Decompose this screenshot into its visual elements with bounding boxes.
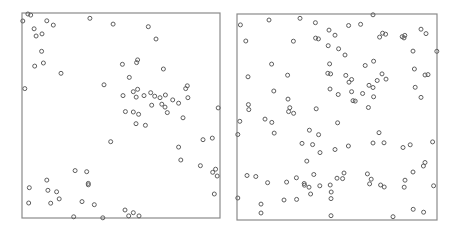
data-point (45, 19, 49, 23)
data-point (421, 164, 425, 168)
data-point (288, 106, 292, 110)
data-point (212, 192, 216, 196)
data-point (329, 190, 333, 194)
data-point (363, 64, 367, 68)
data-point (328, 62, 332, 66)
data-point (307, 128, 311, 132)
data-point (270, 62, 274, 66)
data-point (244, 39, 248, 43)
data-point (372, 95, 376, 99)
data-point (179, 158, 183, 162)
data-point (287, 110, 291, 114)
data-point (266, 181, 270, 185)
data-point (32, 27, 36, 31)
data-point (177, 145, 181, 149)
data-point (341, 177, 345, 181)
data-point (369, 177, 373, 181)
data-point (333, 33, 337, 37)
data-point (158, 96, 162, 100)
data-point (45, 178, 49, 182)
data-point (350, 78, 354, 82)
data-point (402, 185, 406, 189)
data-point (59, 71, 63, 75)
data-point (382, 141, 386, 145)
data-point (365, 172, 369, 176)
data-point (419, 27, 423, 31)
data-point (326, 44, 330, 48)
data-point (336, 121, 340, 125)
data-point (247, 108, 251, 112)
data-point (49, 201, 53, 205)
data-point (312, 173, 316, 177)
data-point (295, 197, 299, 201)
data-point (366, 106, 370, 110)
data-point (136, 87, 140, 91)
data-point (329, 197, 333, 201)
data-point (292, 111, 296, 115)
data-point (121, 94, 125, 98)
data-point (432, 184, 436, 188)
data-point (131, 110, 135, 114)
data-point (246, 75, 250, 79)
data-point (109, 140, 113, 144)
data-point (350, 90, 354, 94)
data-point (285, 180, 289, 184)
data-point (259, 202, 263, 206)
data-point (391, 215, 395, 219)
data-point (270, 120, 274, 124)
data-point (294, 176, 298, 180)
data-point (127, 75, 131, 79)
data-point (380, 72, 384, 76)
data-point (282, 198, 286, 202)
data-point (161, 67, 165, 71)
data-point (329, 214, 333, 218)
data-point (431, 140, 435, 144)
data-point (238, 119, 242, 123)
data-point (134, 95, 138, 99)
data-point (291, 39, 295, 43)
data-point (411, 207, 415, 211)
data-point (33, 64, 37, 68)
data-point (40, 32, 44, 36)
data-point (254, 175, 258, 179)
data-point (343, 53, 347, 57)
data-point (368, 182, 372, 186)
point-pattern-figure (0, 0, 455, 230)
data-point (344, 73, 348, 77)
data-point (142, 94, 146, 98)
data-point (361, 92, 365, 96)
data-point (259, 211, 263, 215)
data-point (171, 98, 175, 102)
data-point (305, 159, 309, 163)
data-point (215, 174, 219, 178)
data-point (378, 35, 382, 39)
data-point (411, 49, 415, 53)
data-point (102, 83, 106, 87)
data-point (85, 170, 89, 174)
data-point (153, 94, 157, 98)
data-point (51, 23, 55, 27)
data-point (201, 138, 205, 142)
data-point (143, 123, 147, 127)
data-point (163, 93, 167, 97)
plot-frame (237, 14, 437, 220)
data-point (300, 141, 304, 145)
data-point (412, 67, 416, 71)
data-point (286, 73, 290, 77)
data-point (286, 97, 290, 101)
data-point (137, 214, 141, 218)
data-point (346, 144, 350, 148)
data-point (424, 32, 428, 36)
data-point (411, 170, 415, 174)
data-point (327, 28, 331, 32)
data-point (40, 49, 44, 53)
data-point (313, 21, 317, 25)
data-point (149, 91, 153, 95)
data-point (46, 188, 50, 192)
data-point (131, 90, 135, 94)
data-point (214, 167, 218, 171)
data-point (123, 110, 127, 114)
data-point (246, 103, 250, 107)
data-point (347, 24, 351, 28)
data-point (73, 169, 77, 173)
